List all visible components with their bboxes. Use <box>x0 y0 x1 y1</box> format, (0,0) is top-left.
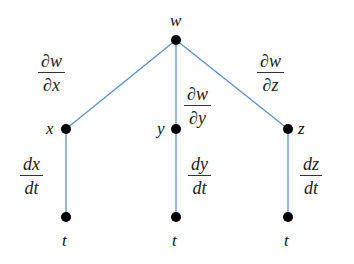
node-t-left <box>61 212 71 222</box>
fraction-dy-dt: dy dt <box>188 155 211 197</box>
fraction-dx-dt: dx dt <box>20 155 43 197</box>
node-t-middle <box>171 212 181 222</box>
fraction-numerator: ∂w <box>184 85 211 105</box>
label-t-right: t <box>284 232 289 249</box>
label-y: y <box>157 120 165 137</box>
node-t-right <box>283 212 293 222</box>
edge-w-x <box>66 40 176 129</box>
fraction-dw-dx: ∂w ∂x <box>38 52 65 94</box>
label-x: x <box>46 120 54 137</box>
fraction-dz-dt: dz dt <box>300 155 322 197</box>
fraction-denominator: dt <box>301 176 321 197</box>
fraction-denominator: dt <box>21 176 41 197</box>
node-y <box>171 124 181 134</box>
label-z: z <box>298 120 305 137</box>
fraction-numerator: dz <box>300 155 322 175</box>
label-t-left: t <box>62 232 67 249</box>
fraction-denominator: ∂y <box>186 106 209 127</box>
fraction-numerator: dy <box>188 155 211 175</box>
fraction-numerator: ∂w <box>38 52 65 72</box>
fraction-denominator: dt <box>189 176 209 197</box>
fraction-numerator: dx <box>20 155 43 175</box>
node-z <box>283 124 293 134</box>
fraction-dw-dz: ∂w ∂z <box>257 52 284 94</box>
fraction-dw-dy: ∂w ∂y <box>184 85 211 127</box>
fraction-denominator: ∂x <box>40 73 63 94</box>
node-x <box>61 124 71 134</box>
label-t-middle: t <box>172 232 177 249</box>
label-w: w <box>170 12 181 29</box>
node-w <box>171 35 181 45</box>
fraction-denominator: ∂z <box>260 73 282 94</box>
fraction-numerator: ∂w <box>257 52 284 72</box>
